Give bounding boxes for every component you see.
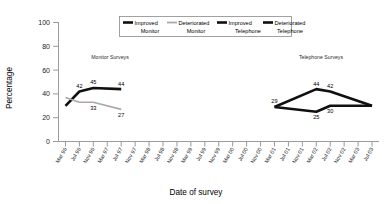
data-point-label: 45 <box>90 79 96 85</box>
x-tick-label: Mar 03 <box>347 147 361 165</box>
data-point-label: 29 <box>271 98 277 104</box>
series-group <box>65 88 372 112</box>
series-line <box>274 106 372 112</box>
x-tick-label: Nov 98 <box>166 147 180 165</box>
survey-line-chart: Percentage 100 80 60 40 20 0 Mar 96Jul 9… <box>0 0 390 204</box>
y-axis-title: Percentage <box>5 67 14 109</box>
x-tick-label: Nov 01 <box>291 147 305 165</box>
x-tick-label: Nov 96 <box>82 147 96 165</box>
x-tick-label: Jul 97 <box>111 147 123 162</box>
series-line <box>65 88 121 106</box>
data-point-label: 42 <box>76 83 82 89</box>
legend-label-line2: Telephone <box>235 28 261 34</box>
annotation-monitor-surveys: Monitor Surveys <box>91 54 129 60</box>
x-tick-label: Mar 98 <box>138 147 152 165</box>
series-line <box>274 89 372 107</box>
data-point-label: 44 <box>313 81 319 87</box>
legend-label-line2: Telephone <box>277 28 303 34</box>
x-tick-label: Nov 00 <box>249 147 263 165</box>
legend-label-line1: Improved <box>135 20 158 26</box>
annotation-telephone-surveys: Telephone Surveys <box>299 54 344 60</box>
x-tick-label: Jul 02 <box>320 147 332 162</box>
x-tick-label: Nov 97 <box>124 147 138 165</box>
x-tick-label: Jul 00 <box>237 147 249 162</box>
chart-container: Percentage 100 80 60 40 20 0 Mar 96Jul 9… <box>0 0 390 204</box>
data-point-labels: 42454433272944422530 <box>76 79 333 120</box>
x-tick-label: Jul 96 <box>69 147 81 162</box>
y-tick-label: 40 <box>42 90 50 97</box>
x-tick-label: Nov 99 <box>207 147 221 165</box>
data-point-label: 27 <box>118 112 124 118</box>
x-tick-label: Jul 99 <box>195 147 207 162</box>
x-tick-label: Mar 01 <box>263 147 277 165</box>
legend-label-line1: Deteriorated <box>275 20 306 26</box>
y-axis-ticks: 100 80 60 40 20 0 <box>38 19 58 145</box>
y-tick-label: 0 <box>46 138 50 145</box>
x-tick-label: Jul 01 <box>278 147 290 162</box>
data-point-label: 33 <box>90 105 96 111</box>
data-point-label: 30 <box>327 108 333 114</box>
legend-label-line1: Improved <box>229 20 252 26</box>
x-tick-label: Mar 02 <box>305 147 319 165</box>
x-tick-label: Jul 98 <box>153 147 165 162</box>
x-tick-label: Mar 99 <box>180 147 194 165</box>
y-tick-label: 20 <box>42 114 50 121</box>
x-tick-label: Nov 02 <box>333 147 347 165</box>
y-tick-label: 100 <box>38 19 50 26</box>
data-point-label: 44 <box>118 81 124 87</box>
legend-label-line1: Deteriorated <box>179 20 210 26</box>
x-tick-label: Mar 97 <box>96 147 110 165</box>
data-point-label: 25 <box>313 114 319 120</box>
legend-label-line2: Monitor <box>187 28 206 34</box>
x-tick-label: Mar 96 <box>54 147 68 165</box>
x-axis-title: Date of survey <box>170 188 224 197</box>
y-tick-label: 60 <box>42 67 50 74</box>
y-tick-label: 80 <box>42 43 50 50</box>
data-point-label: 42 <box>327 83 333 89</box>
x-axis-tick-labels: Mar 96Jul 96Nov 96Mar 97Jul 97Nov 97Mar … <box>54 147 374 165</box>
chart-legend[interactable]: Improved Monitor Deteriorated Monitor Im… <box>120 17 306 37</box>
x-axis-ticks <box>65 142 372 147</box>
x-tick-label: Jul 03 <box>362 147 374 162</box>
legend-label-line2: Monitor <box>141 28 160 34</box>
x-tick-label: Mar 00 <box>221 147 235 165</box>
